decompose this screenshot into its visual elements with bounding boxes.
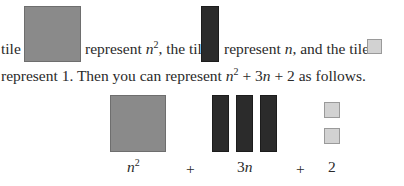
- unit-tile-2: [324, 128, 340, 144]
- n-squared-tile: [110, 95, 166, 152]
- n-tile-3: [260, 95, 277, 152]
- text-line2: represent 1. Then you can represent n2 +…: [1, 68, 366, 84]
- text-tile: tile: [1, 41, 21, 57]
- n-tile-1: [212, 95, 229, 152]
- plus-sign-2: +: [296, 160, 305, 178]
- n-tile-legend: [201, 6, 219, 62]
- text-represent-n2: represent n2, the tile: [85, 41, 209, 57]
- plus-sign-1: +: [186, 160, 195, 178]
- label-2: 2: [328, 158, 336, 176]
- label-3n: 3n: [237, 158, 253, 176]
- n-tile-2: [236, 95, 253, 152]
- text-represent-n: represent n, and the tile: [224, 41, 369, 57]
- n-squared-tile-legend: [24, 6, 81, 62]
- label-n-squared: n2: [127, 158, 140, 176]
- unit-tile-legend: [367, 39, 382, 54]
- unit-tile-1: [324, 102, 340, 118]
